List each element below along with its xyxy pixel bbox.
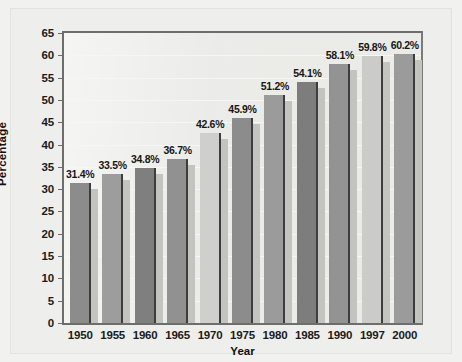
bar-shadow xyxy=(91,189,98,323)
y-tick-label: 20 xyxy=(42,228,54,240)
y-tick-mark xyxy=(58,78,62,79)
y-tick-label: 50 xyxy=(42,94,54,106)
x-tick-label: 1985 xyxy=(295,329,320,341)
y-tick-label: 35 xyxy=(42,161,54,173)
bar-shadow xyxy=(350,70,357,323)
bar[interactable] xyxy=(70,183,91,323)
y-tick-label: 65 xyxy=(42,27,54,39)
bar[interactable] xyxy=(264,95,285,323)
x-tick-label: 1975 xyxy=(230,329,255,341)
y-tick-mark xyxy=(58,145,62,146)
bar[interactable] xyxy=(200,133,221,323)
bar[interactable] xyxy=(362,56,383,323)
y-tick-mark xyxy=(58,167,62,168)
x-tick-label: 1980 xyxy=(263,329,288,341)
bar[interactable] xyxy=(135,168,156,323)
bar-shadow xyxy=(285,101,292,323)
bar-value-label: 51.2% xyxy=(261,80,289,92)
bar-value-label: 33.5% xyxy=(99,159,127,171)
bar[interactable] xyxy=(102,174,123,323)
x-tick-label: 1965 xyxy=(165,329,190,341)
bar[interactable] xyxy=(394,54,415,323)
y-tick-mark xyxy=(58,122,62,123)
y-axis-title: Percentage xyxy=(0,122,8,186)
y-tick-label: 10 xyxy=(42,272,54,284)
bar[interactable] xyxy=(232,118,253,323)
y-tick-label: 30 xyxy=(42,183,54,195)
bar-shadow xyxy=(156,174,163,323)
bar-shadow xyxy=(123,180,130,323)
bar-shadow xyxy=(221,139,228,323)
y-tick-mark xyxy=(58,234,62,235)
y-tick-mark xyxy=(58,278,62,279)
bar-value-label: 54.1% xyxy=(293,67,321,79)
bar[interactable] xyxy=(167,159,188,323)
bar-value-label: 36.7% xyxy=(163,144,191,156)
bar-value-label: 60.2% xyxy=(391,39,419,51)
bar-value-label: 45.9% xyxy=(228,103,256,115)
y-tick-mark xyxy=(58,189,62,190)
y-tick-label: 55 xyxy=(42,72,54,84)
y-tick-label: 25 xyxy=(42,205,54,217)
y-tick-label: 60 xyxy=(42,49,54,61)
y-tick-label: 15 xyxy=(42,250,54,262)
y-tick-mark xyxy=(58,55,62,56)
x-tick-label: 1990 xyxy=(327,329,352,341)
bar-shadow xyxy=(188,165,195,323)
y-tick-label: 40 xyxy=(42,139,54,151)
bar-shadow xyxy=(253,124,260,323)
bar-value-label: 42.6% xyxy=(196,118,224,130)
x-tick-label: 2000 xyxy=(392,329,417,341)
y-tick-mark xyxy=(58,256,62,257)
bar-shadow xyxy=(383,62,390,323)
y-tick-mark xyxy=(58,100,62,101)
y-tick-mark xyxy=(58,33,62,34)
bar-shadow xyxy=(318,88,325,323)
y-tick-mark xyxy=(58,323,62,324)
x-tick-label: 1955 xyxy=(100,329,125,341)
x-axis-title: Year xyxy=(62,345,423,357)
x-tick-label: 1970 xyxy=(198,329,223,341)
bar-value-label: 59.8% xyxy=(358,41,386,53)
y-axis: 05101520253035404550556065 xyxy=(0,0,62,362)
x-tick-label: 1950 xyxy=(68,329,93,341)
bar-shadow xyxy=(415,60,422,323)
y-tick-label: 0 xyxy=(48,317,54,329)
x-tick-label: 1997 xyxy=(360,329,385,341)
y-tick-label: 45 xyxy=(42,116,54,128)
y-tick-label: 5 xyxy=(48,295,54,307)
x-tick-label: 1960 xyxy=(133,329,158,341)
bar-value-label: 34.8% xyxy=(131,153,159,165)
bar[interactable] xyxy=(329,64,350,323)
bar-value-label: 58.1% xyxy=(326,49,354,61)
y-tick-mark xyxy=(58,301,62,302)
bar-chart-figure: 05101520253035404550556065 Percentage 19… xyxy=(0,0,462,362)
bar-value-label: 31.4% xyxy=(66,168,94,180)
plot-area xyxy=(62,31,423,325)
bar[interactable] xyxy=(297,82,318,323)
y-tick-mark xyxy=(58,211,62,212)
